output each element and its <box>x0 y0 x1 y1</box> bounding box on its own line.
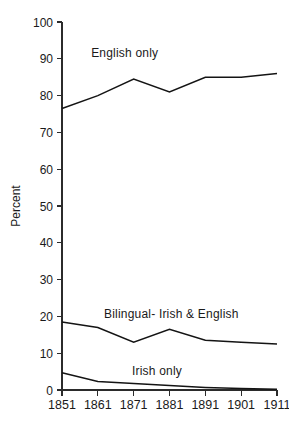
x-tick-label-1851: 1851 <box>48 398 76 412</box>
series-line-bilingual-irish-english <box>62 322 277 344</box>
y-tick-label-90: 90 <box>40 52 54 66</box>
x-tick-label-1861: 1861 <box>84 398 112 412</box>
y-tick-label-30: 30 <box>40 273 54 287</box>
y-tick-label-0: 0 <box>46 384 53 398</box>
chart-container: 0102030405060708090100 18511861187118811… <box>0 0 289 429</box>
y-axis: 0102030405060708090100 <box>33 16 62 398</box>
series-inline-labels: English onlyBilingual- Irish & EnglishIr… <box>91 46 238 378</box>
y-tick-label-70: 70 <box>40 126 54 140</box>
x-tick-label-1881: 1881 <box>156 398 184 412</box>
x-tick-label-1911: 1911 <box>264 398 289 412</box>
x-tick-label-1871: 1871 <box>120 398 148 412</box>
x-tick-label-1901: 1901 <box>227 398 255 412</box>
x-axis: 1851186118711881189119011911 <box>48 390 289 412</box>
series-label-bilingual-irish-english: Bilingual- Irish & English <box>104 307 239 321</box>
series-line-english-only <box>62 74 277 109</box>
y-tick-label-100: 100 <box>33 16 53 30</box>
x-tick-labels: 1851186118711881189119011911 <box>48 398 289 412</box>
line-chart: 0102030405060708090100 18511861187118811… <box>0 0 289 429</box>
y-tick-label-20: 20 <box>40 310 54 324</box>
series-label-irish-only: Irish only <box>132 364 182 378</box>
y-tick-labels: 0102030405060708090100 <box>33 16 53 398</box>
y-tick-label-10: 10 <box>40 347 54 361</box>
y-axis-title: Percent <box>9 185 23 227</box>
y-tick-label-80: 80 <box>40 89 54 103</box>
y-tick-label-60: 60 <box>40 163 54 177</box>
x-tick-marks <box>62 390 277 396</box>
x-tick-label-1891: 1891 <box>191 398 219 412</box>
y-tick-label-50: 50 <box>40 200 54 214</box>
series-label-english-only: English only <box>91 46 158 60</box>
y-tick-label-40: 40 <box>40 236 54 250</box>
data-series-group <box>62 74 277 390</box>
